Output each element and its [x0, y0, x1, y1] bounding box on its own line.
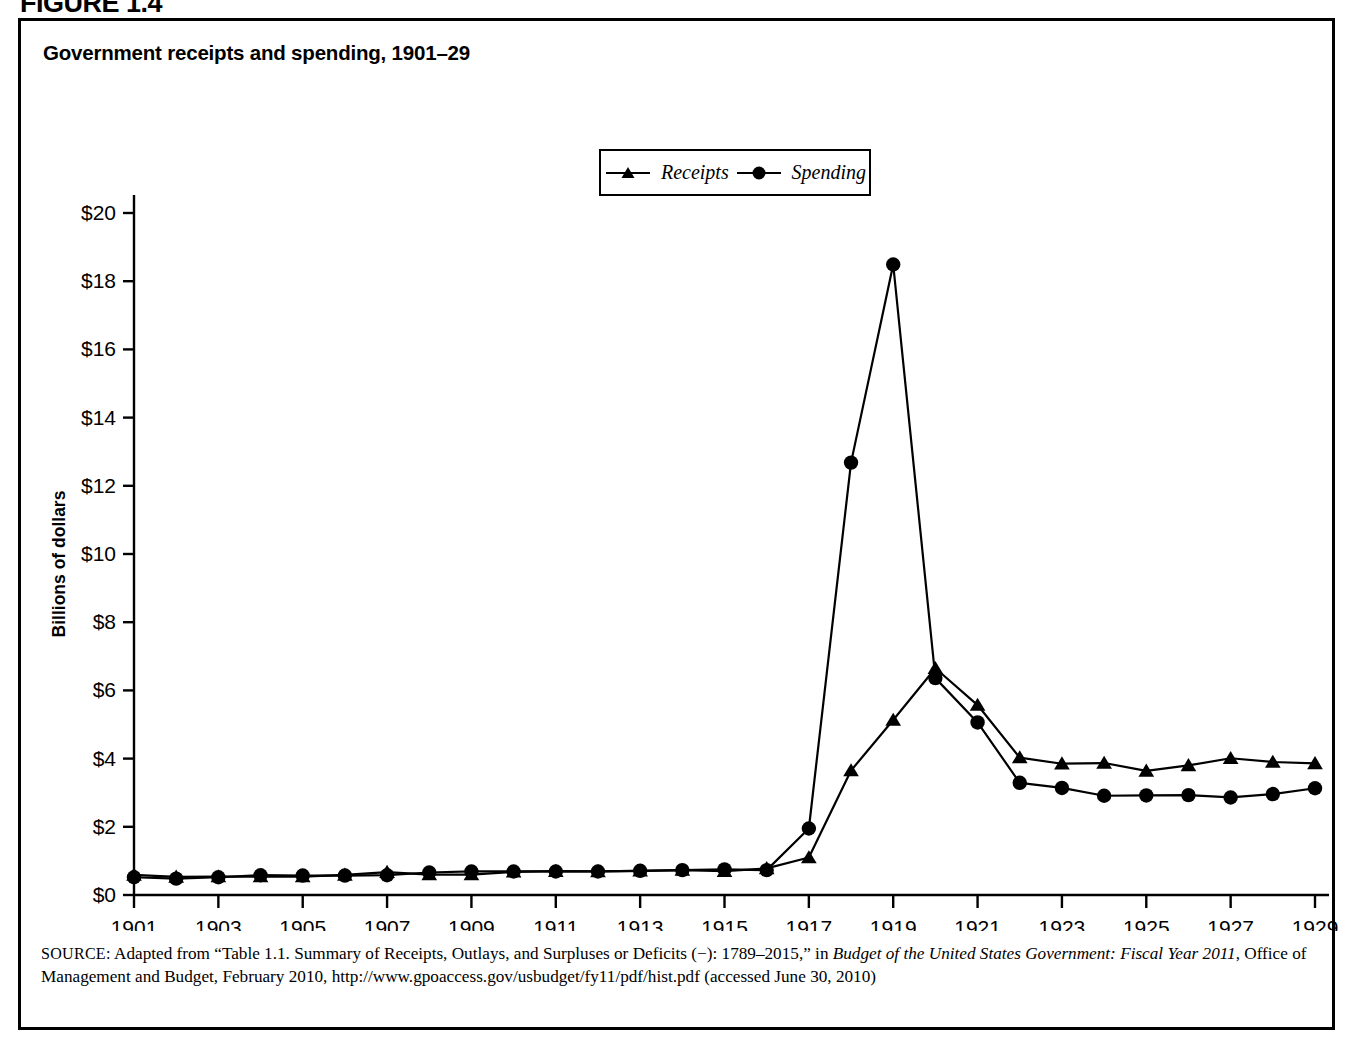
y-axis-tick-label: $18	[81, 269, 116, 292]
data-point-spending	[549, 864, 563, 878]
data-point-spending	[802, 821, 816, 835]
y-axis-tick-label: $12	[81, 474, 116, 497]
x-axis-tick-label: 1901	[111, 916, 158, 931]
x-axis-tick-label: 1905	[279, 916, 326, 931]
y-axis-tick-label: $16	[81, 337, 116, 360]
data-point-spending	[1266, 787, 1280, 801]
legend-label-receipts: Receipts	[661, 161, 729, 184]
x-axis-tick-label: 1917	[785, 916, 832, 931]
data-point-spending	[1139, 788, 1153, 802]
y-axis-title: Billions of dollars	[49, 490, 69, 637]
data-point-spending	[1181, 788, 1195, 802]
x-axis-tick-label: 1927	[1207, 916, 1254, 931]
source-label: SOURCE:	[41, 945, 111, 962]
data-point-spending	[422, 865, 436, 879]
data-point-spending	[759, 863, 773, 877]
y-axis-tick-label: $2	[93, 815, 116, 838]
data-point-spending	[1097, 789, 1111, 803]
figure-number-label: FIGURE 1.4	[20, 0, 162, 19]
data-point-spending	[253, 868, 267, 882]
x-axis-tick-label: 1915	[701, 916, 748, 931]
source-publication-title: Budget of the United States Government: …	[833, 944, 1236, 963]
data-point-spending	[970, 715, 984, 729]
y-axis-tick-label: $0	[93, 883, 116, 906]
y-axis-tick-label: $20	[81, 201, 116, 224]
data-point-spending	[380, 868, 394, 882]
x-axis-tick-label: 1913	[617, 916, 664, 931]
data-point-spending	[886, 257, 900, 271]
data-point-spending	[591, 864, 605, 878]
y-axis-tick-label: $6	[93, 678, 116, 701]
x-axis-tick-label: 1923	[1039, 916, 1086, 931]
figure-container: Government receipts and spending, 1901–2…	[18, 18, 1335, 1030]
data-point-spending	[127, 870, 141, 884]
data-point-spending	[1223, 790, 1237, 804]
data-point-spending	[296, 868, 310, 882]
receipts-marker-icon	[604, 163, 652, 183]
series-line-receipts	[134, 668, 1315, 877]
y-axis-tick-label: $10	[81, 542, 116, 565]
data-point-spending	[169, 871, 183, 885]
spending-marker-icon	[735, 163, 783, 183]
chart-legend: Receipts Spending	[599, 149, 871, 196]
source-text-1: Adapted from “Table 1.1. Summary of Rece…	[111, 944, 833, 963]
data-point-spending	[675, 863, 689, 877]
series-line-spending	[134, 264, 1315, 878]
legend-entry-spending: Spending	[735, 161, 866, 184]
data-point-spending	[464, 864, 478, 878]
data-point-spending	[844, 455, 858, 469]
data-point-spending	[928, 671, 942, 685]
data-point-spending	[1013, 776, 1027, 790]
data-point-spending	[506, 864, 520, 878]
x-axis-tick-label: 1911	[533, 916, 578, 931]
data-point-receipts	[1223, 751, 1239, 764]
x-axis-tick-label: 1907	[364, 916, 411, 931]
x-axis-tick-label: 1919	[870, 916, 917, 931]
y-axis-tick-label: $14	[81, 406, 116, 429]
data-point-receipts	[801, 850, 817, 863]
x-axis-tick-label: 1929	[1292, 916, 1338, 931]
y-axis-tick-label: $4	[93, 747, 117, 770]
legend-label-spending: Spending	[792, 161, 866, 184]
y-axis-tick-label: $8	[93, 610, 116, 633]
data-point-spending	[338, 868, 352, 882]
x-axis-tick-label: 1925	[1123, 916, 1170, 931]
data-point-spending	[717, 862, 731, 876]
data-point-spending	[1055, 781, 1069, 795]
x-axis-tick-label: 1921	[954, 916, 1001, 931]
legend-entry-receipts: Receipts	[604, 161, 729, 184]
data-point-spending	[1308, 781, 1322, 795]
source-note: SOURCE: Adapted from “Table 1.1. Summary…	[41, 943, 1318, 989]
x-axis-tick-label: 1909	[448, 916, 495, 931]
data-point-spending	[633, 864, 647, 878]
data-point-spending	[211, 870, 225, 884]
x-axis-tick-label: 1903	[195, 916, 242, 931]
